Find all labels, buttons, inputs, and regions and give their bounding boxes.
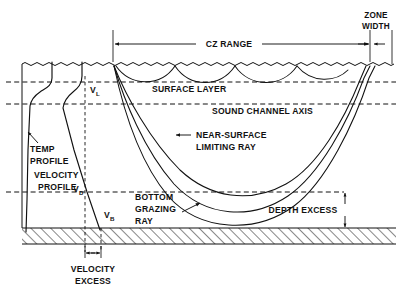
velocity-excess-label-line1: VELOCITY [71,264,116,274]
velocity-profile-label-line1: VELOCITY [34,170,79,180]
vb-subscript: B [110,215,115,222]
near-surface-label-line2: LIMITING RAY [196,142,256,152]
velocity-profile-label-line2: PROFILE [38,182,77,192]
temp-profile-label-line2: PROFILE [30,156,69,166]
vl-subscript: L [96,90,100,97]
temp-profile-callout-arrow [28,132,38,143]
depth-excess-dimension: DEPTH EXCESS [269,193,345,227]
near-surface-label-line1: NEAR-SURFACE [196,130,267,140]
surface-layer-label: SURFACE LAYER [152,84,227,94]
velocity-excess-dimension: VELOCITY EXCESS [71,246,116,286]
zone-width-dimension: ZONE WIDTH [358,11,392,64]
vl-label-group: V L [90,85,100,97]
vb-label-group: V B [104,210,115,222]
bottom-grazing-label-line2: GRAZING [135,204,176,214]
velocity-profile-callout: VELOCITY PROFILE [34,170,79,192]
cz-range-label: CZ RANGE [206,39,253,49]
convergence-zone-diagram: CZ RANGE ZONE WIDTH SURFACE LAYER SOUND … [0,0,418,299]
cz-arc-1 [116,66,175,82]
sound-channel-axis-label: SOUND CHANNEL AXIS [212,106,313,116]
depth-excess-label: DEPTH EXCESS [269,205,338,215]
diagram-canvas: CZ RANGE ZONE WIDTH SURFACE LAYER SOUND … [0,0,418,299]
bottom-grazing-label-line3: RAY [135,216,153,226]
near-surface-limiting-ray-callout: NEAR-SURFACE LIMITING RAY [176,130,267,152]
seafloor [22,228,396,244]
zone-width-label-line2: WIDTH [362,22,390,31]
sea-surface-wavy-line [22,63,394,66]
surface-layer-annotation: SURFACE LAYER [152,84,227,94]
zone-width-label-line1: ZONE [364,11,388,20]
bottom-grazing-label-line1: BOTTOM [135,192,173,202]
bottom-grazing-ray-callout: BOTTOM GRAZING RAY [135,192,200,226]
sea-surface [22,63,394,66]
cz-arc-3 [235,66,297,83]
cz-arc-2 [175,66,235,83]
temp-profile-label-line1: TEMP [30,144,55,154]
vd-subscript: D [79,189,84,196]
cz-arc-4 [297,66,348,79]
convergence-zone-surface-arcs [116,66,348,83]
seafloor-hatch-band [22,228,396,244]
cz-range-dimension: CZ RANGE [113,30,370,62]
velocity-excess-label-line2: EXCESS [75,276,111,286]
temp-profile-callout: TEMP PROFILE [28,132,69,166]
sound-channel-axis-annotation: SOUND CHANNEL AXIS [212,106,313,116]
bottom-grazing-callout-arrow [182,203,200,212]
